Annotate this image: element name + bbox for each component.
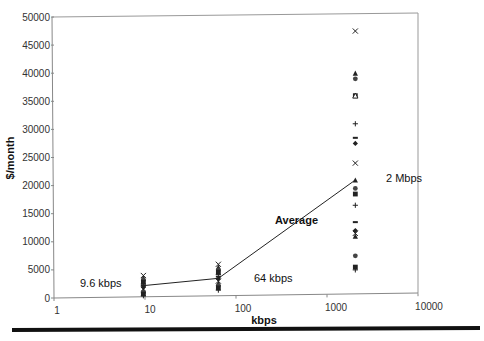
y-tick-label: 50000	[22, 12, 50, 23]
y-tick-label: 5000	[28, 264, 51, 275]
y-tick-label: 40000	[22, 68, 50, 79]
annotations: 9.6 kbps64 kbps2 MbpsAverage	[80, 172, 423, 289]
x-tick-label: 1000	[325, 302, 348, 313]
y-tick-label: 25000	[22, 152, 50, 163]
annotation-label: Average	[275, 214, 318, 226]
y-tick-label: 15000	[22, 208, 50, 219]
x-tick-label: 10000	[415, 301, 443, 312]
x-tick-label: 1	[54, 305, 60, 316]
annotation-label: 2 Mbps	[386, 172, 423, 184]
annotation-label: 9.6 kbps	[80, 277, 122, 289]
y-axis-title: $/month	[4, 136, 16, 179]
y-tick-label: 35000	[22, 96, 50, 107]
x-tick-label: 100	[235, 303, 252, 314]
y-axis-ticks: 0500010000150002000025000300003500040000…	[22, 12, 54, 304]
y-tick-label: 45000	[22, 40, 50, 51]
y-tick-label: 0	[44, 293, 50, 304]
annotation-label: 64 kbps	[254, 272, 293, 284]
average-line	[143, 180, 355, 286]
y-tick-label: 20000	[22, 180, 50, 191]
plot-area	[52, 13, 418, 298]
y-tick-label: 30000	[22, 124, 50, 135]
x-tick-label: 10	[144, 304, 156, 315]
data-points	[141, 28, 358, 298]
x-axis-title: kbps	[251, 314, 277, 326]
chart: 0500010000150002000025000300003500040000…	[0, 0, 484, 341]
y-tick-label: 10000	[22, 236, 50, 247]
x-axis-ticks: 110100100010000	[54, 293, 443, 316]
